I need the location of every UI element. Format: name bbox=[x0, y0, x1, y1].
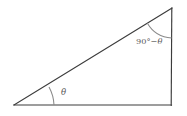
angle-complement-theta: θ bbox=[157, 36, 162, 46]
angle-theta-arc bbox=[49, 87, 54, 105]
angle-complement-minus: − bbox=[151, 36, 158, 46]
triangle-diagram-svg: θ 90°−θ bbox=[0, 0, 187, 116]
angle-theta-label: θ bbox=[61, 87, 66, 97]
angle-complement-label: 90°−θ bbox=[136, 36, 162, 46]
geometry-figure: θ 90°−θ bbox=[0, 0, 187, 116]
vertical-edge bbox=[171, 8, 172, 105]
angle-complement-degrees: 90° bbox=[136, 36, 151, 46]
hypotenuse-edge bbox=[14, 8, 172, 105]
